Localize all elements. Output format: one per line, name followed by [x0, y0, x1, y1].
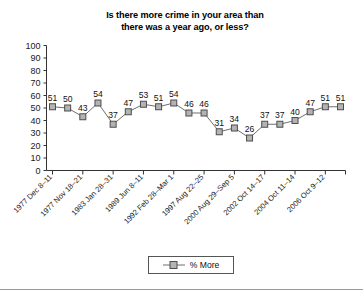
data-point-marker	[201, 110, 207, 116]
data-label: 47	[305, 98, 315, 108]
data-point-marker	[277, 121, 283, 127]
data-point-marker	[65, 105, 71, 111]
y-tick-label: 100	[25, 41, 40, 51]
y-tick-label: 90	[30, 53, 40, 63]
data-point-marker	[307, 109, 313, 115]
x-tick-labels: 1977 Dec 8–111977 Nov 18–211983 Jan 28–3…	[12, 173, 327, 227]
data-point-marker	[125, 109, 131, 115]
y-tick-label: 0	[35, 166, 40, 176]
legend-label-more: % More	[190, 260, 220, 270]
bottom-divider	[0, 289, 363, 290]
data-labels: 5150435437475351544646313426373740475151	[48, 89, 346, 134]
y-tick-label: 50	[30, 103, 40, 113]
data-point-marker	[338, 104, 344, 110]
data-label: 51	[48, 93, 58, 103]
legend-marker-icon	[163, 260, 185, 270]
data-point-marker	[292, 118, 298, 124]
data-label: 51	[321, 93, 331, 103]
data-point-marker	[262, 121, 268, 127]
chart-legend: % More	[148, 256, 234, 274]
data-label: 37	[260, 110, 270, 120]
data-label: 51	[336, 93, 346, 103]
data-point-marker	[140, 101, 146, 107]
data-point-marker	[80, 114, 86, 120]
y-tick-label: 70	[30, 78, 40, 88]
data-label: 54	[169, 89, 179, 99]
data-point-marker	[171, 100, 177, 106]
data-point-marker	[247, 135, 253, 141]
data-point-marker	[216, 129, 222, 135]
data-label: 31	[214, 118, 224, 128]
y-tick-label: 80	[30, 66, 40, 76]
y-tick-label: 10	[30, 153, 40, 163]
data-point-marker	[95, 100, 101, 106]
y-tick-label: 60	[30, 91, 40, 101]
data-point-marker	[110, 121, 116, 127]
y-tick-label: 20	[30, 141, 40, 151]
data-label: 43	[78, 103, 88, 113]
line-chart-plot: 1009080706050403020100 51504354374753515…	[0, 0, 363, 300]
y-tick-label: 30	[30, 128, 40, 138]
data-label: 37	[275, 110, 285, 120]
data-label: 51	[154, 93, 164, 103]
data-label: 47	[124, 98, 134, 108]
data-point-marker	[186, 110, 192, 116]
y-axis: 1009080706050403020100	[25, 41, 46, 176]
data-label: 50	[63, 94, 73, 104]
chart-figure: Is there more crime in your area than th…	[0, 0, 363, 300]
data-label: 34	[230, 114, 240, 124]
x-axis	[47, 171, 346, 175]
data-point-marker	[50, 104, 56, 110]
data-label: 46	[199, 99, 209, 109]
data-point-marker	[231, 125, 237, 131]
data-point-marker	[156, 104, 162, 110]
data-label: 53	[139, 90, 149, 100]
data-point-marker	[322, 104, 328, 110]
data-label: 37	[108, 110, 118, 120]
data-label: 46	[184, 99, 194, 109]
data-label: 26	[245, 124, 255, 134]
y-tick-label: 40	[30, 116, 40, 126]
data-label: 54	[93, 89, 103, 99]
data-label: 40	[290, 107, 300, 117]
